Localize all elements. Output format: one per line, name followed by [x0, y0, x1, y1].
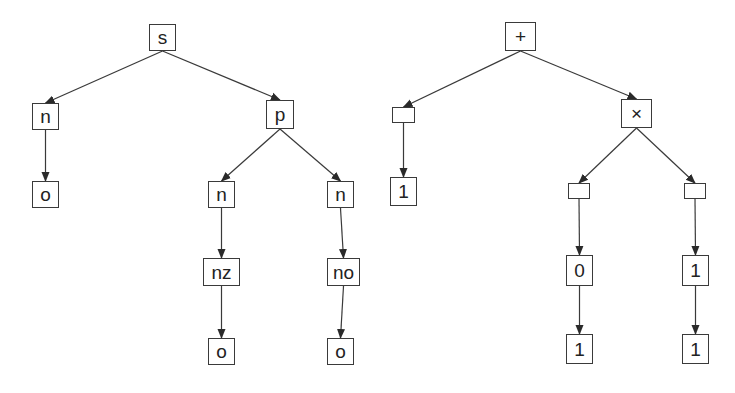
tree-node-one4: 1: [682, 334, 709, 364]
edge-arrow: [695, 199, 696, 255]
tree-node-no: no: [327, 258, 360, 286]
edge-arrow: [579, 128, 637, 183]
tree-node-empty: [568, 183, 590, 199]
tree-node-n2: n: [208, 181, 235, 208]
tree-node-one2: 1: [682, 255, 709, 286]
tree-node-o3: o: [327, 338, 354, 365]
tree-node-one3: 1: [566, 334, 593, 364]
edge-arrow: [341, 208, 344, 258]
tree-node-n3: n: [327, 181, 354, 208]
edge-arrow: [46, 51, 163, 103]
edge-arrow: [521, 51, 637, 99]
edge-arrow: [163, 51, 281, 100]
tree-node-one1: 1: [390, 177, 417, 206]
tree-node-empty: [392, 107, 415, 123]
edge-arrow: [637, 128, 696, 183]
edge-arrow: [222, 129, 281, 181]
tree-node-zero: 0: [566, 255, 593, 286]
tree-node-times: ×: [621, 99, 652, 128]
edge-arrow: [280, 129, 341, 181]
tree-node-n1: n: [32, 103, 59, 130]
tree-node-p: p: [266, 100, 294, 129]
tree-node-plus: +: [505, 22, 536, 51]
edge-arrow: [341, 286, 344, 338]
tree-node-nz: nz: [203, 258, 240, 286]
edge-arrow: [579, 199, 580, 255]
tree-node-o2: o: [208, 338, 235, 365]
edge-arrow: [404, 51, 521, 107]
tree-node-s: s: [149, 24, 176, 51]
edge-layer: [0, 0, 735, 393]
tree-node-o1: o: [32, 181, 59, 208]
tree-node-empty: [684, 183, 706, 199]
